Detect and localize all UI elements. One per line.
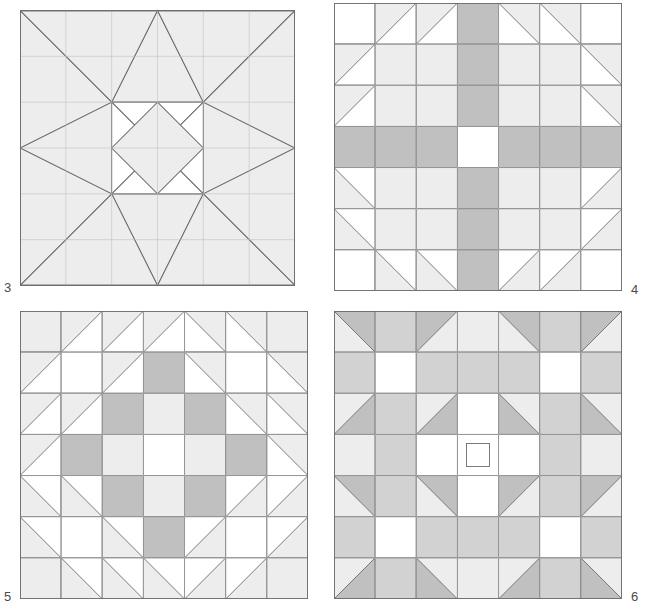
quilt-block-4	[334, 3, 622, 291]
quilt-block-3-figure	[20, 3, 295, 293]
quilt-block-6-label: 6	[631, 590, 638, 603]
quilt-block-diagram-sheet: 3 4 5 6	[0, 0, 646, 606]
quilt-block-3-label: 3	[4, 281, 11, 294]
quilt-block-6	[334, 311, 622, 599]
quilt-block-6-figure	[334, 311, 622, 599]
quilt-block-4-figure	[334, 3, 622, 291]
quilt-block-5-figure	[20, 311, 308, 599]
quilt-block-5	[20, 311, 308, 599]
quilt-block-5-label: 5	[4, 590, 11, 603]
quilt-block-3	[20, 3, 295, 293]
quilt-block-4-label: 4	[631, 283, 638, 296]
